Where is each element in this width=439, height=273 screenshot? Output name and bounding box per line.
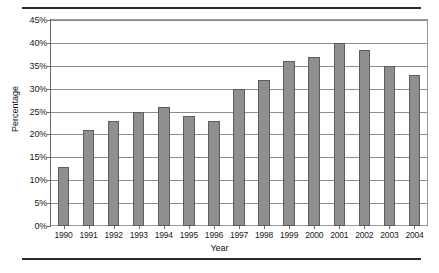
bar [409, 75, 421, 226]
bar [83, 130, 95, 226]
y-tick-label: 35% [1, 61, 47, 71]
x-tick-mark [164, 226, 165, 229]
y-tick-label: 0% [1, 221, 47, 231]
x-tick-label: 1999 [277, 230, 302, 240]
x-tick-mark [314, 226, 315, 229]
chart-figure: 0%5%10%15%20%25%30%35%40%45% Percentage … [0, 0, 439, 273]
x-tick-label: 2000 [302, 230, 327, 240]
x-tick-label: 1997 [226, 230, 251, 240]
x-tick-label: 1991 [76, 230, 101, 240]
y-tick-label: 10% [1, 175, 47, 185]
bar [58, 167, 70, 227]
x-tick-mark [114, 226, 115, 229]
y-tick-mark [47, 20, 50, 21]
y-tick-label: 20% [1, 129, 47, 139]
y-tick-mark [47, 226, 50, 227]
bar [384, 66, 396, 226]
x-tick-label: 1992 [101, 230, 126, 240]
y-tick-label: 25% [1, 107, 47, 117]
y-tick-label: 30% [1, 84, 47, 94]
y-tick-label: 45% [1, 15, 47, 25]
x-tick-mark [339, 226, 340, 229]
y-tick-mark [47, 43, 50, 44]
x-tick-label: 1998 [252, 230, 277, 240]
bar [233, 89, 245, 226]
y-tick-mark [47, 180, 50, 181]
bar [283, 61, 295, 226]
y-axis-title: Percentage [10, 69, 20, 149]
x-tick-mark [289, 226, 290, 229]
x-tick-mark [139, 226, 140, 229]
x-tick-mark [389, 226, 390, 229]
x-tick-mark [189, 226, 190, 229]
x-tick-label: 1994 [151, 230, 176, 240]
y-tick-mark [47, 89, 50, 90]
y-axis-ticks: 0%5%10%15%20%25%30%35%40%45% [0, 0, 47, 273]
x-axis-ticks: 1990199119921993199419951996199719981999… [51, 226, 427, 244]
bar [108, 121, 120, 226]
x-tick-mark [89, 226, 90, 229]
x-tick-label: 1995 [176, 230, 201, 240]
x-tick-label: 2003 [377, 230, 402, 240]
x-tick-mark [364, 226, 365, 229]
x-axis-title: Year [0, 243, 439, 253]
y-tick-mark [47, 112, 50, 113]
bottom-horizontal-rule [22, 258, 421, 260]
bar [359, 50, 371, 226]
x-tick-label: 1996 [201, 230, 226, 240]
bar [158, 107, 170, 226]
bar [133, 112, 145, 226]
top-horizontal-rule [22, 7, 421, 9]
x-tick-label: 2004 [402, 230, 427, 240]
bar [334, 43, 346, 226]
x-tick-mark [64, 226, 65, 229]
y-tick-mark [47, 134, 50, 135]
bar [208, 121, 220, 226]
bar [258, 80, 270, 226]
y-tick-mark [47, 157, 50, 158]
y-tick-label: 5% [1, 198, 47, 208]
x-tick-mark [239, 226, 240, 229]
bars-group [51, 20, 427, 226]
x-tick-label: 1993 [126, 230, 151, 240]
x-tick-label: 1990 [51, 230, 76, 240]
x-tick-mark [214, 226, 215, 229]
x-tick-mark [414, 226, 415, 229]
bar [183, 116, 195, 226]
x-tick-mark [264, 226, 265, 229]
y-tick-mark [47, 203, 50, 204]
bar [308, 57, 320, 226]
y-tick-mark [47, 66, 50, 67]
y-tick-label: 15% [1, 152, 47, 162]
y-tick-label: 40% [1, 38, 47, 48]
x-tick-label: 2002 [352, 230, 377, 240]
x-tick-label: 2001 [327, 230, 352, 240]
